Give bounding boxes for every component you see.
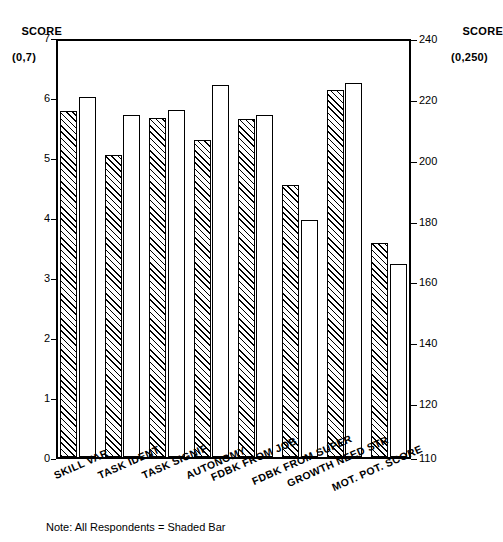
right-tick-label: 180 [419,217,449,228]
right-tick-label: 220 [419,95,449,106]
right-tick-label: 110 [419,453,449,464]
right-axis-title: SCORE (0,250) [449,12,503,90]
right-tick-label: 140 [419,338,449,349]
left-tick-label: 5 [34,153,50,164]
right-tick-label: 160 [419,277,449,288]
bars-layer [58,41,409,457]
left-tick-label: 0 [34,453,50,464]
left-tick-label: 7 [34,33,50,44]
bar [301,220,318,457]
left-tick-mark [51,459,56,460]
bar [371,243,388,457]
left-tick-label: 2 [34,333,50,344]
bar [390,264,407,457]
plot-area [56,39,411,459]
right-tick-mark [411,344,417,345]
bar [79,97,96,457]
left-axis-range-label: (0,7) [8,51,62,64]
left-tick-label: 1 [34,393,50,404]
right-tick-mark [411,459,417,460]
bar [60,111,77,457]
right-tick-label: 240 [419,34,449,45]
right-axis-title-text: SCORE [462,25,503,37]
left-tick-label: 3 [34,273,50,284]
chart-note: Note: All Respondents = Shaded Bar [46,521,225,533]
left-tick-label: 4 [34,213,50,224]
right-tick-mark [411,223,417,224]
bar [212,85,229,457]
bar [194,140,211,457]
bar [105,155,122,457]
bar [345,83,362,457]
bar [256,115,273,457]
right-tick-mark [411,405,417,406]
bar [149,118,166,457]
left-axis-title: SCORE (0,7) [8,12,62,90]
right-axis-range-label: (0,250) [449,51,503,64]
right-tick-mark [411,162,417,163]
right-tick-label: 120 [419,399,449,410]
bar [282,185,299,457]
right-tick-mark [411,40,417,41]
right-tick-mark [411,101,417,102]
right-tick-mark [411,283,417,284]
bar [327,90,344,457]
bar [238,119,255,457]
left-tick-label: 6 [34,93,50,104]
right-tick-label: 200 [419,156,449,167]
bar [123,115,140,457]
bar [168,110,185,457]
